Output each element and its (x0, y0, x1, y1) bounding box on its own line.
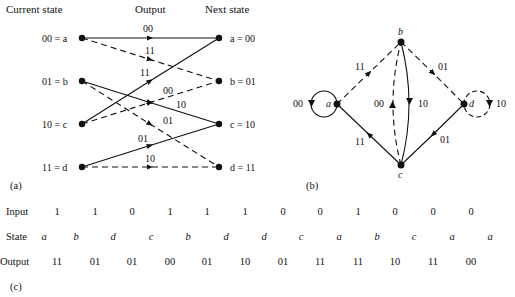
state-label-b-c: 10 (418, 98, 428, 109)
state-value: b (374, 231, 379, 242)
output-pair: 01 (278, 256, 289, 267)
state-label-b-d: 01 (438, 61, 448, 72)
output-pair: 10 (240, 256, 251, 267)
node-a: a (326, 98, 331, 109)
state-value: c (149, 231, 154, 242)
edge-label-c-b: 00 (163, 85, 173, 96)
input-bit: 0 (129, 206, 134, 217)
output-pair: 11 (428, 256, 438, 267)
edge-label-b-c: 10 (176, 99, 186, 110)
state-value: c (412, 231, 417, 242)
state-value: b (73, 231, 78, 242)
trellis-diagram: Current state Output Next state 00 = a 0… (6, 3, 256, 173)
right-state-d: d = 11 (230, 162, 255, 173)
state-label-c-b: 00 (374, 98, 384, 109)
state-value: a (449, 231, 454, 242)
edge-a-self (311, 91, 337, 117)
state-label-d-c: 01 (440, 134, 450, 145)
output-pair: 00 (165, 256, 176, 267)
input-bit: 1 (54, 206, 59, 217)
input-bit: 0 (317, 206, 322, 217)
edge-a-b-state (337, 42, 401, 104)
edge-label-c-a: 11 (140, 67, 150, 78)
caption-b: (b) (306, 180, 318, 191)
node-c: c (398, 169, 403, 180)
output-pair: 11 (315, 256, 325, 267)
input-bit: 0 (468, 206, 473, 217)
input-bit: 1 (167, 206, 172, 217)
state-value: c (299, 231, 304, 242)
input-label: Input (6, 206, 28, 217)
input-bit: 0 (392, 206, 397, 217)
node-d: d (469, 98, 475, 109)
edge-b-c-state (401, 42, 409, 165)
edge-label-a-b: 11 (145, 45, 155, 56)
edge-c-a-state (337, 104, 401, 165)
state-label-c-a: 11 (355, 136, 365, 147)
node-b: b (398, 26, 403, 37)
output-pair: 01 (202, 256, 213, 267)
output-label: Output (0, 256, 29, 267)
right-state-c: c = 10 (230, 119, 255, 130)
state-value: b (185, 231, 190, 242)
input-row: Input 1 1 0 1 1 1 0 0 1 0 0 0 (0, 206, 515, 220)
left-state-b: 01 = b (42, 76, 68, 87)
state-value: a (336, 231, 341, 242)
state-label-d-d: 10 (496, 98, 506, 109)
output-row: Output 11 01 01 00 01 10 01 11 11 10 11 … (0, 256, 515, 270)
state-label: State (6, 231, 27, 242)
state-row: State a b d c b d d c a b c a a (0, 231, 515, 245)
state-label-a-b: 11 (355, 61, 365, 72)
output-pair: 11 (353, 256, 363, 267)
state-value: a (41, 231, 46, 242)
input-bit: 1 (242, 206, 247, 217)
edge-b-d-state (401, 42, 464, 104)
state-value: d (261, 231, 266, 242)
header-next-state: Next state (205, 3, 249, 15)
caption-a: (a) (10, 180, 22, 191)
input-bit: 0 (280, 206, 285, 217)
header-output: Output (135, 3, 166, 15)
state-value: d (223, 231, 228, 242)
edge-d-self (464, 91, 490, 117)
input-bit: 1 (204, 206, 209, 217)
state-value: a (487, 231, 492, 242)
edge-c-b-state (393, 42, 401, 165)
left-state-d: 11 = d (42, 162, 67, 173)
output-pair: 00 (466, 256, 477, 267)
input-bit: 0 (430, 206, 435, 217)
input-bit: 1 (92, 206, 97, 217)
output-pair: 01 (127, 256, 138, 267)
edge-label-b-d: 01 (163, 115, 173, 126)
right-state-a: a = 00 (230, 33, 255, 44)
header-current-state: Current state (6, 3, 63, 15)
left-state-a: 00 = a (42, 33, 68, 44)
state-label-a-a: 00 (293, 98, 303, 109)
output-pair: 10 (390, 256, 401, 267)
input-bit: 1 (355, 206, 360, 217)
edge-d-c-state (401, 104, 464, 165)
edge-label-d-c: 01 (138, 133, 148, 144)
convolutional-code-figure: Current state Output Next state 00 = a 0… (0, 0, 515, 297)
edge-label-a-a: 00 (143, 23, 153, 34)
left-state-c: 10 = c (42, 119, 68, 130)
right-state-b: b = 01 (230, 76, 256, 87)
output-pair: 01 (90, 256, 101, 267)
edge-label-d-d: 10 (145, 153, 155, 164)
state-value: d (110, 231, 115, 242)
output-pair: 11 (52, 256, 62, 267)
caption-c: (c) (10, 281, 22, 292)
state-diagram: a b c d 00 11 01 10 00 11 01 10 (293, 26, 506, 180)
